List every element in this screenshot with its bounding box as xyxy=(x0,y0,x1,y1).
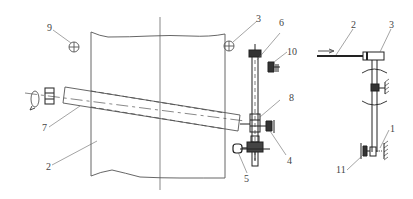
label-5: 5 xyxy=(244,173,249,184)
label-9: 9 xyxy=(47,22,52,33)
sensor-marker-3 xyxy=(224,41,234,51)
label-3-main: 3 xyxy=(256,13,261,24)
side-bracket-4 xyxy=(260,120,274,133)
label-4: 4 xyxy=(287,155,292,166)
main-view xyxy=(25,17,287,190)
label-2-side: 2 xyxy=(351,19,356,30)
label-2-main: 2 xyxy=(46,161,51,172)
label-1: 1 xyxy=(390,123,395,134)
sensor-marker-9 xyxy=(69,42,79,52)
label-8: 8 xyxy=(289,92,294,103)
labels-main: 9 3 6 10 8 4 5 7 2 xyxy=(42,13,297,184)
web-panel xyxy=(91,17,225,190)
mechanical-diagram: 9 3 6 10 8 4 5 7 2 xyxy=(0,0,413,199)
label-7: 7 xyxy=(42,122,47,133)
limit-bracket-10 xyxy=(268,62,280,72)
label-6: 6 xyxy=(279,17,284,28)
lower-mechanism xyxy=(361,141,388,160)
label-11: 11 xyxy=(336,164,346,175)
label-3-side: 3 xyxy=(389,19,394,30)
push-rod xyxy=(317,49,363,56)
slider-nut xyxy=(240,114,260,132)
sleeve xyxy=(363,52,384,60)
label-10: 10 xyxy=(287,46,297,57)
pivot xyxy=(371,79,389,94)
vertical-rod xyxy=(372,60,377,152)
inclined-roller xyxy=(25,87,245,131)
side-view xyxy=(317,29,391,170)
